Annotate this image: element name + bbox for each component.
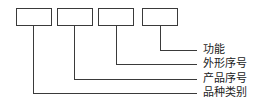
label-product-number: 产品序号 [203,73,247,85]
code-box-2 [57,8,93,26]
connector-4-horizontal [160,50,197,51]
label-category: 品种类别 [203,87,247,99]
connector-3-horizontal [116,64,197,65]
connector-1-horizontal [33,93,197,94]
connector-4-vertical [160,26,161,51]
label-function: 功能 [203,44,225,56]
connector-3-vertical [116,26,117,65]
connector-1-vertical [33,26,34,94]
label-shape-number: 外形序号 [203,58,247,70]
code-box-1 [16,8,52,26]
code-box-4 [142,8,178,26]
connector-2-vertical [74,26,75,80]
connector-2-horizontal [74,79,197,80]
code-box-3 [98,8,134,26]
